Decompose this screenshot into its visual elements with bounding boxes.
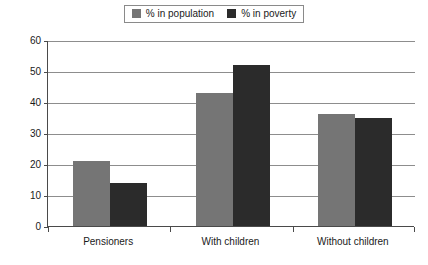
y-axis-tick-label: 0 bbox=[35, 222, 41, 232]
y-axis-tick-label: 30 bbox=[30, 129, 41, 139]
y-axis-tick bbox=[44, 72, 48, 73]
legend-entry-population[interactable]: % in population bbox=[132, 8, 214, 19]
y-axis-tick bbox=[44, 134, 48, 135]
y-axis-tick-label: 40 bbox=[30, 98, 41, 108]
bar[interactable] bbox=[233, 65, 270, 226]
legend-entry-poverty[interactable]: % in poverty bbox=[227, 8, 296, 19]
bar[interactable] bbox=[355, 118, 392, 227]
legend-box: % in population % in poverty bbox=[124, 5, 304, 23]
y-axis-tick bbox=[44, 41, 48, 42]
x-axis-tick bbox=[293, 227, 294, 232]
x-axis-tick bbox=[170, 227, 171, 232]
y-axis-tick-label: 10 bbox=[30, 191, 41, 201]
x-axis-category-label: Without children bbox=[292, 236, 414, 247]
legend-swatch-poverty bbox=[227, 9, 236, 18]
bar[interactable] bbox=[318, 114, 355, 226]
y-axis-tick-label: 20 bbox=[30, 160, 41, 170]
legend-swatch-population bbox=[132, 9, 141, 18]
y-axis-tick bbox=[44, 196, 48, 197]
x-axis-tick bbox=[414, 227, 415, 232]
y-axis-tick-label: 50 bbox=[30, 67, 41, 77]
legend-label-poverty: % in poverty bbox=[241, 8, 296, 19]
x-axis-category-label: Pensioners bbox=[47, 236, 169, 247]
gridline bbox=[48, 41, 415, 42]
chart-legend: % in population % in poverty bbox=[0, 5, 428, 23]
legend-label-population: % in population bbox=[146, 8, 214, 19]
x-axis-category-label: With children bbox=[169, 236, 291, 247]
x-axis-tick bbox=[48, 227, 49, 232]
y-axis-tick bbox=[44, 165, 48, 166]
y-axis-labels: 0102030405060 bbox=[0, 0, 41, 265]
plot-area bbox=[47, 41, 414, 227]
bar[interactable] bbox=[73, 161, 110, 226]
y-axis-tick bbox=[44, 103, 48, 104]
bar[interactable] bbox=[110, 183, 147, 226]
bar[interactable] bbox=[196, 93, 233, 226]
gridline bbox=[48, 72, 415, 73]
y-axis-tick-label: 60 bbox=[30, 36, 41, 46]
